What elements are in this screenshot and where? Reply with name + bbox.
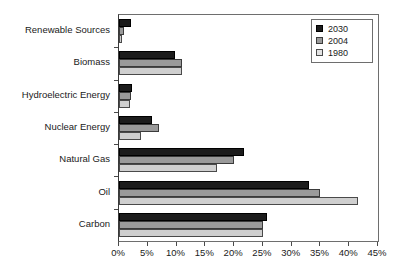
x-axis-tick: [291, 242, 292, 246]
x-axis-tick-label: 40%: [339, 247, 358, 258]
x-axis-tick-label: 35%: [310, 247, 329, 258]
x-axis-tick: [348, 242, 349, 246]
legend-label-2004: 2004: [328, 36, 348, 46]
y-axis-label-renewable-sources: Renewable Sources: [25, 25, 110, 35]
y-axis-tick: [114, 112, 118, 113]
bar-2030-renewable-sources: [119, 19, 131, 27]
y-axis-tick: [114, 80, 118, 81]
y-axis-label-carbon: Carbon: [79, 219, 110, 229]
bar-2030-oil: [119, 181, 309, 189]
bar-2030-carbon: [119, 213, 267, 221]
bar-1980-renewable-sources: [119, 35, 122, 43]
bar-1980-hydroelectric-energy: [119, 100, 130, 108]
legend-label-1980: 1980: [328, 48, 348, 58]
y-axis-tick: [114, 176, 118, 177]
bar-2030-natural-gas: [119, 148, 244, 156]
x-axis-tick: [176, 242, 177, 246]
bar-2004-biomass: [119, 59, 182, 67]
x-axis-tick-label: 10%: [166, 247, 185, 258]
y-axis-label-hydroelectric-energy: Hydroelectric Energy: [22, 90, 110, 100]
y-axis-tick: [114, 47, 118, 48]
bar-2004-renewable-sources: [119, 27, 124, 35]
legend-label-2030: 2030: [328, 24, 348, 34]
bar-2030-biomass: [119, 51, 175, 59]
x-axis-tick-label: 15%: [195, 247, 214, 258]
bar-1980-nuclear-energy: [119, 132, 141, 140]
bar-2004-hydroelectric-energy: [119, 92, 131, 100]
bar-chart: Renewable SourcesBiomassHydroelectric En…: [0, 0, 404, 275]
x-axis-tick-labels: 0%5%10%15%20%25%30%35%40%45%: [0, 247, 404, 261]
x-axis-tick-label: 20%: [224, 247, 243, 258]
x-axis-tick: [118, 242, 119, 246]
bar-2030-nuclear-energy: [119, 116, 152, 124]
x-axis-tick: [319, 242, 320, 246]
x-axis-tick: [233, 242, 234, 246]
y-axis-category-labels: Renewable SourcesBiomassHydroelectric En…: [0, 14, 114, 242]
x-axis-tick: [147, 242, 148, 246]
x-axis-tick-label: 25%: [252, 247, 271, 258]
y-axis-label-oil: Oil: [98, 187, 110, 197]
y-axis-label-biomass: Biomass: [74, 57, 110, 67]
x-axis-tick: [262, 242, 263, 246]
x-axis-tick: [377, 242, 378, 246]
y-axis-tick: [114, 144, 118, 145]
bar-1980-carbon: [119, 229, 263, 237]
legend-swatch-1980-icon: [316, 49, 323, 56]
y-axis-label-nuclear-energy: Nuclear Energy: [45, 122, 110, 132]
legend-item-1980[interactable]: 1980: [316, 47, 368, 58]
bar-2004-natural-gas: [119, 156, 234, 164]
bar-1980-natural-gas: [119, 164, 217, 172]
bar-2004-nuclear-energy: [119, 124, 159, 132]
legend-swatch-2004-icon: [316, 37, 323, 44]
x-axis-tick: [204, 242, 205, 246]
x-axis-tick-label: 30%: [281, 247, 300, 258]
legend-swatch-2030-icon: [316, 25, 323, 32]
y-axis-tick: [114, 209, 118, 210]
bar-2004-carbon: [119, 221, 263, 229]
legend-item-2030[interactable]: 2030: [316, 23, 368, 34]
x-axis-tick-label: 45%: [367, 247, 386, 258]
legend-item-2004[interactable]: 2004: [316, 35, 368, 46]
bar-1980-biomass: [119, 67, 182, 75]
bar-2030-hydroelectric-energy: [119, 84, 132, 92]
chart-legend: 203020041980: [311, 19, 373, 63]
y-axis-label-natural-gas: Natural Gas: [59, 154, 110, 164]
x-axis-tick-label: 5%: [140, 247, 154, 258]
bar-2004-oil: [119, 189, 320, 197]
x-axis-tick-label: 0%: [111, 247, 125, 258]
bar-1980-oil: [119, 197, 358, 205]
